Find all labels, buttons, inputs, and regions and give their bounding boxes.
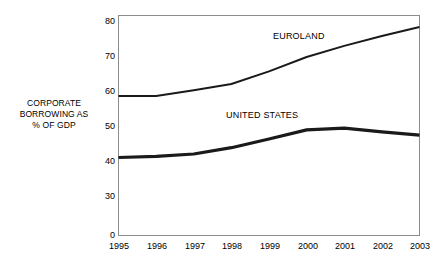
series-line-euroland <box>119 27 420 96</box>
chart-plot-svg <box>0 0 438 263</box>
series-line-united-states <box>119 128 420 157</box>
chart-container: CORPORATE BORROWING AS % OF GDP 80 70 60… <box>0 0 438 263</box>
plot-frame <box>119 16 420 236</box>
